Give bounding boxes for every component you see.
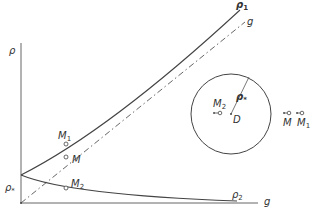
curve-rho1 bbox=[21, 10, 240, 175]
origin-dot bbox=[20, 202, 22, 204]
point-m1-sub: 1 bbox=[67, 135, 71, 143]
curve-rho2-sub: 2 bbox=[238, 194, 242, 202]
inset-m1-label: M1 bbox=[297, 118, 310, 130]
inset-m1-symbol: M bbox=[297, 117, 306, 128]
inset-center-label: D bbox=[233, 115, 241, 125]
point-m1-label: M1 bbox=[58, 131, 71, 143]
inset-m2-symbol: M bbox=[213, 98, 222, 109]
inset-m-symbol: M bbox=[283, 117, 292, 128]
curve-rho1-label: ρ1 bbox=[236, 0, 248, 12]
intercept-label: ρ* bbox=[5, 183, 15, 195]
inset-m2-sub: 2 bbox=[222, 103, 226, 111]
inset-arrow-m-head bbox=[283, 112, 285, 114]
curve-rho2-label: ρ2 bbox=[232, 190, 243, 202]
inset-arrow-m2-head bbox=[213, 112, 215, 114]
reference-line-g bbox=[21, 22, 245, 203]
x-axis-label: g bbox=[264, 197, 270, 207]
inset-point-m bbox=[287, 111, 291, 115]
intercept-sub: * bbox=[11, 187, 15, 195]
point-m-symbol: M bbox=[72, 154, 81, 165]
reference-line-label: g bbox=[247, 17, 253, 27]
inset-m1-sub: 1 bbox=[306, 122, 310, 130]
inset-m2-label: M2 bbox=[213, 99, 226, 111]
inset-center-dot bbox=[230, 113, 232, 115]
point-m-label: M bbox=[72, 155, 81, 165]
point-m2-label: M2 bbox=[71, 179, 84, 191]
inset-point-m1 bbox=[300, 111, 304, 115]
curve-rho1-sub: 1 bbox=[243, 4, 248, 12]
inset-arrow-m1-head bbox=[296, 112, 298, 114]
point-m2-symbol: M bbox=[71, 178, 80, 189]
point-m1-symbol: M bbox=[58, 130, 67, 141]
diagram-canvas bbox=[0, 0, 314, 214]
point-m2-sub: 2 bbox=[80, 183, 84, 191]
inset-radius-label: ρ* bbox=[236, 92, 247, 104]
curve-rho2 bbox=[21, 175, 237, 201]
inset-radius-sub: * bbox=[243, 96, 247, 104]
inset-m-label: M bbox=[283, 118, 292, 128]
point-m bbox=[64, 155, 68, 159]
y-axis-label: ρ bbox=[9, 46, 15, 56]
point-m2 bbox=[64, 186, 68, 190]
inset-point-m2 bbox=[218, 111, 222, 115]
